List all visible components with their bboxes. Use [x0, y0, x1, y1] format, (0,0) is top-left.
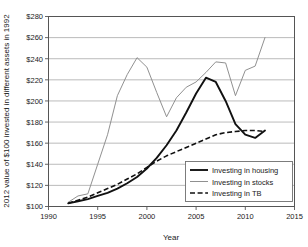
y-tick-label: $140 — [26, 160, 43, 169]
x-tick-label: 1990 — [40, 212, 57, 221]
y-tick-label: $220 — [26, 76, 43, 85]
y-tick-label: $200 — [26, 97, 43, 106]
legend-label-tb: Investing in TB — [212, 189, 261, 198]
x-tick-label: 2015 — [286, 212, 303, 221]
legend-label-housing: Investing in housing — [212, 166, 278, 175]
y-tick-label: $260 — [26, 33, 43, 42]
x-tick-label: 2000 — [139, 212, 156, 221]
y-tick-label: $160 — [26, 139, 43, 148]
y-tick-label: $180 — [26, 118, 43, 127]
figure-background — [0, 0, 308, 247]
y-axis-label: 2012 value of $100 invested in different… — [2, 14, 11, 208]
y-tick-label: $120 — [26, 181, 43, 190]
x-tick-label: 2005 — [188, 212, 205, 221]
y-tick-label: $100 — [26, 202, 43, 211]
legend: Investing in housing Investing in stocks… — [186, 162, 293, 202]
y-tick-label: $280 — [26, 12, 43, 21]
chart-figure: $100$120$140$160$180$200$220$240$260$280… — [0, 0, 308, 247]
x-tick-label: 2010 — [237, 212, 254, 221]
legend-label-stocks: Investing in stocks — [212, 178, 274, 187]
x-tick-label: 1995 — [89, 212, 106, 221]
x-axis-label: Year — [163, 233, 180, 242]
y-tick-label: $240 — [26, 55, 43, 64]
